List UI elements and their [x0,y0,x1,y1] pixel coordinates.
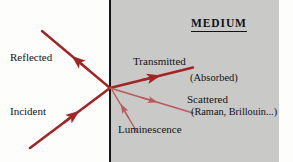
incident-ray [30,88,110,148]
luminescence-label: Luminescence [118,124,182,135]
scattered-label: Scattered [187,94,228,105]
absorbed-label: (Absorbed) [190,73,238,84]
reflected-ray [42,31,110,88]
ray-paths-svg [0,0,293,162]
scattered-ray [110,88,193,113]
incident-label: Incident [10,106,46,117]
light-medium-interaction-diagram: MEDIUM Reflected Incident Transmitted (A… [0,0,293,162]
transmitted-ray [110,68,193,89]
medium-title-label: MEDIUM [191,18,247,32]
scattered-detail-label: (Raman, Brillouin...) [191,107,277,117]
reflected-label: Reflected [10,52,52,63]
transmitted-label: Transmitted [133,56,186,67]
